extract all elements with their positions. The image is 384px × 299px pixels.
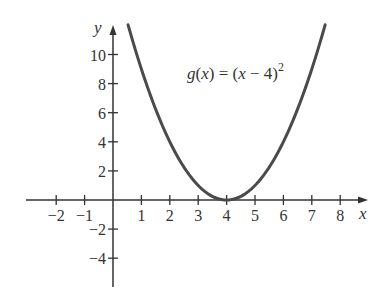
x-tick-label: −2 xyxy=(48,207,65,224)
x-tick-label: 5 xyxy=(251,207,259,224)
y-tick-label: 8 xyxy=(98,76,106,93)
y-axis-arrow-icon xyxy=(110,25,117,35)
y-tick-label: 6 xyxy=(98,105,106,122)
y-axis-label: y xyxy=(92,18,102,37)
x-axis-label: x xyxy=(358,204,367,223)
x-tick-label: 3 xyxy=(194,207,202,224)
y-tick-label: 4 xyxy=(98,134,106,151)
chart-canvas: −2−112345678 108642−2−4 x y g(x) = (x − … xyxy=(0,0,384,299)
y-tick-label: 10 xyxy=(90,47,106,64)
x-tick-label: 4 xyxy=(223,207,231,224)
x-tick-label: 8 xyxy=(336,207,344,224)
x-axis xyxy=(26,197,368,204)
y-tick-label: −2 xyxy=(89,221,106,238)
x-axis-arrow-icon xyxy=(358,197,368,204)
curve-g xyxy=(128,25,325,200)
y-axis xyxy=(110,25,117,287)
equation-label: g(x) = (x − 4)2 xyxy=(187,60,284,83)
y-tick-label: −4 xyxy=(89,250,106,267)
x-tick-label: 7 xyxy=(308,207,316,224)
x-tick-label: 2 xyxy=(166,207,174,224)
x-tick-label: 1 xyxy=(137,207,145,224)
y-tick-label: 2 xyxy=(98,163,106,180)
x-tick-label: 6 xyxy=(279,207,287,224)
